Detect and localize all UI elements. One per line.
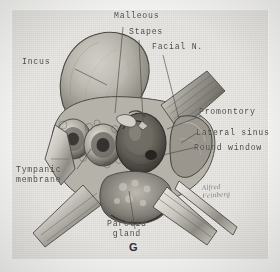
label-malleous: Malleous	[114, 11, 159, 21]
retractor-blade-lower-left	[33, 185, 101, 247]
label-round-window: Round window	[194, 143, 262, 153]
label-parotid-gland: Parotid gland	[107, 219, 147, 240]
label-incus: Incus	[22, 57, 50, 67]
illustration-plate: Malleous Stapes Facial N. Incus Promonto…	[0, 0, 280, 272]
label-facial-n: Facial N.	[152, 42, 203, 52]
label-stapes: Stapes	[129, 27, 163, 37]
figure-letter: G	[129, 241, 138, 253]
label-tympanic-membrane: Tympanic membrane	[16, 165, 61, 186]
label-lateral-sinus: Lateral sinus	[196, 128, 270, 138]
label-promontory: Promontory	[199, 107, 256, 117]
artist-signature: Alfred Feinberg	[201, 182, 230, 200]
